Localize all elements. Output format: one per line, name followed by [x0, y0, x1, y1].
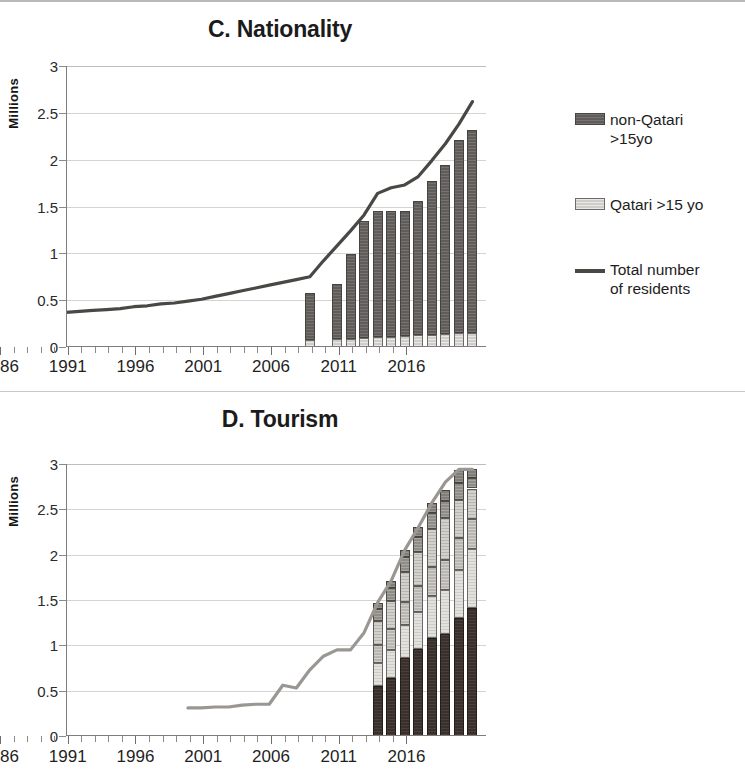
x-axis-tick: [0, 347, 1, 355]
x-axis-tick: [298, 347, 299, 353]
x-axis-tick: [393, 736, 394, 742]
bar-segment: [440, 490, 450, 501]
panel-d-plot-area: [66, 464, 486, 736]
panel-c-y-axis-line: [66, 66, 67, 347]
bar-segment: [427, 503, 437, 513]
x-axis-tick: [230, 736, 231, 742]
x-axis-tick: [135, 347, 136, 355]
bar-segment: [454, 470, 464, 483]
legend-item[interactable]: Qatari >15 yo: [575, 195, 703, 214]
x-axis-tick: [271, 736, 272, 744]
stacked-bar: [359, 221, 369, 347]
bar-segment: [454, 483, 464, 500]
legend-item[interactable]: non-Qatari >15yo: [575, 110, 683, 148]
x-axis-tick: [163, 347, 164, 353]
y-axis-tick: [59, 66, 66, 67]
y-axis-tick-label: 1.5: [37, 592, 58, 609]
legend-color-swatch-icon: [575, 113, 605, 125]
panel-d-y-axis-line: [66, 464, 67, 736]
stacked-bar: [305, 293, 315, 347]
stacked-bar: [413, 201, 423, 347]
bar-segment: [373, 645, 383, 663]
bar-segment: [454, 500, 464, 538]
x-axis-tick: [54, 347, 55, 353]
legend-line-swatch-icon: [575, 269, 605, 273]
x-axis-tick: [41, 736, 42, 742]
bar-segment: [467, 469, 477, 477]
bar-segment: [467, 549, 477, 608]
x-axis-tick: [257, 736, 258, 742]
bar-segment: [413, 649, 423, 736]
x-axis-tick: [41, 347, 42, 353]
panel-d-y-axis-title: Millions: [6, 476, 21, 527]
bar-segment: [386, 581, 396, 588]
x-axis-tick: [190, 736, 191, 742]
stacked-bar: [400, 211, 410, 347]
x-axis-tick-label: 1996: [117, 747, 155, 767]
x-axis-tick-label: 2011: [320, 747, 357, 767]
x-axis-tick: [325, 347, 326, 353]
x-axis-tick: [366, 347, 367, 353]
bar-segment: [467, 478, 477, 489]
bar-segment: [386, 601, 396, 629]
panel-d-x-tick-labels: 1986199119962001200620112016: [0, 747, 420, 771]
x-axis-tick: [176, 347, 177, 353]
bar-segment: [373, 621, 383, 645]
bar-segment: [454, 140, 464, 333]
x-axis-tick-label: 1991: [49, 747, 87, 767]
x-axis-tick: [366, 736, 367, 742]
x-axis-tick: [108, 347, 109, 353]
x-axis-tick: [149, 347, 150, 353]
x-axis-tick: [0, 736, 1, 744]
y-axis-tick-label: 2: [50, 546, 58, 563]
x-axis-tick: [406, 736, 407, 744]
bar-segment: [332, 284, 342, 338]
x-axis-tick: [95, 347, 96, 353]
stacked-bar: [427, 181, 437, 347]
panel-c-y-tick-labels: 00.511.522.53: [22, 66, 58, 347]
legend-item-label: Total number of residents: [610, 260, 700, 298]
gridline: [66, 160, 486, 161]
y-axis-tick-label: 0.5: [37, 682, 58, 699]
x-axis-tick: [244, 347, 245, 353]
stacked-bar: [467, 130, 477, 347]
x-axis-tick: [230, 347, 231, 353]
x-axis-tick-label: 2016: [388, 357, 426, 377]
x-axis-tick-label: 2016: [388, 747, 426, 767]
x-axis-tick: [68, 736, 69, 744]
x-axis-tick: [190, 347, 191, 353]
gridline: [66, 113, 486, 114]
x-axis-tick: [312, 736, 313, 742]
bar-segment: [373, 211, 383, 337]
stacked-bar: [427, 503, 437, 736]
panel-c-x-tick-labels: 1986199119962001200620112016: [0, 357, 420, 381]
bar-segment: [400, 658, 410, 736]
stacked-bar: [440, 490, 450, 736]
x-axis-tick: [352, 347, 353, 353]
stacked-bar: [386, 581, 396, 736]
x-axis-tick: [122, 736, 123, 742]
x-axis-tick: [14, 347, 15, 353]
x-axis-tick: [325, 736, 326, 742]
bar-segment: [373, 609, 383, 621]
bar-segment: [386, 211, 396, 337]
x-axis-tick-label: 2006: [252, 747, 290, 767]
x-axis-tick: [27, 347, 28, 353]
panel-d-x-ticks: [0, 736, 420, 744]
x-axis-tick: [352, 736, 353, 742]
x-axis-tick: [54, 736, 55, 742]
bar-segment: [413, 586, 423, 612]
y-axis-tick-label: 1: [50, 245, 58, 262]
bar-segment: [454, 570, 464, 618]
x-axis-tick: [149, 736, 150, 742]
x-axis-tick: [271, 347, 272, 355]
bar-segment: [467, 489, 477, 520]
legend-item[interactable]: Total number of residents: [575, 260, 700, 298]
x-axis-tick: [163, 736, 164, 742]
y-axis-tick: [59, 207, 66, 208]
x-axis-tick: [298, 736, 299, 742]
y-axis-tick: [59, 160, 66, 161]
bar-segment: [400, 550, 410, 557]
y-axis-tick-label: 2.5: [37, 104, 58, 121]
stacked-bar: [467, 469, 477, 736]
